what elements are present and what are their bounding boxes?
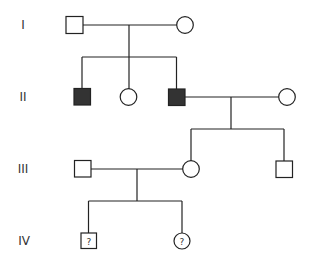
- individual-II-3-male-affected: [169, 89, 186, 106]
- generation-label-3: III: [18, 162, 29, 176]
- individual-I-1-male-unaffected: [66, 17, 83, 34]
- generation-label-2: II: [19, 90, 26, 104]
- individual-II-4-female-unaffected: [279, 89, 296, 106]
- pedigree-chart: I II III IV ? ?: [0, 0, 312, 267]
- individual-III-1-male-unaffected: [75, 161, 92, 178]
- individual-III-2-female-unaffected: [183, 161, 200, 178]
- individual-II-2-female-unaffected: [120, 89, 137, 106]
- generation-label-1: I: [21, 18, 25, 32]
- unknown-status-mark-IV-2: ?: [180, 237, 185, 247]
- individual-I-2-female-unaffected: [177, 17, 194, 34]
- individual-II-1-male-affected: [74, 89, 91, 106]
- individual-III-3-male-unaffected: [276, 161, 293, 178]
- generation-label-4: IV: [18, 234, 31, 248]
- unknown-status-mark-IV-1: ?: [86, 237, 91, 247]
